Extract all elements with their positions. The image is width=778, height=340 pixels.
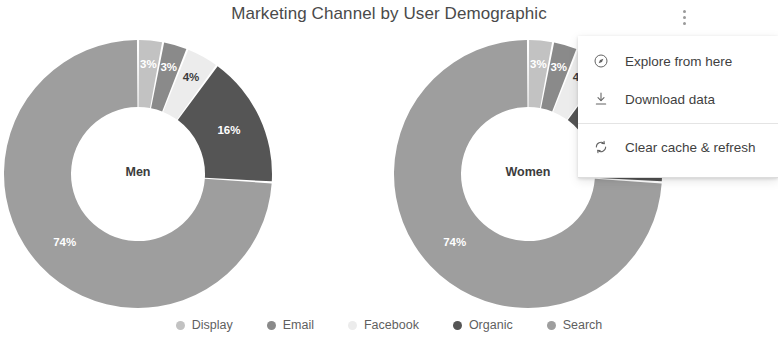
legend-item-search[interactable]: Search <box>547 318 603 332</box>
menu-item-label: Download data <box>625 92 715 107</box>
legend-item-email[interactable]: Email <box>267 318 314 332</box>
menu-bottom-rule <box>578 177 778 178</box>
compass-icon <box>592 52 610 70</box>
legend-label: Organic <box>469 318 513 332</box>
menu-divider <box>578 123 778 124</box>
donut-slice-label-search: 74% <box>53 236 76 248</box>
menu-item-label: Clear cache & refresh <box>625 140 756 155</box>
legend-label: Facebook <box>364 318 419 332</box>
kebab-dot <box>683 22 686 25</box>
legend-item-facebook[interactable]: Facebook <box>348 318 419 332</box>
legend-label: Email <box>283 318 314 332</box>
more-vert-icon[interactable] <box>675 6 693 28</box>
legend-item-display[interactable]: Display <box>176 318 233 332</box>
donut-center-label-men: Men <box>2 165 274 179</box>
menu-item-clear-cache-refresh[interactable]: Clear cache & refresh <box>578 128 778 166</box>
donut-chart-men[interactable]: 3%3%4%16%74% Men <box>2 38 274 310</box>
kebab-dot <box>683 10 686 13</box>
refresh-icon <box>592 138 610 156</box>
menu-item-download-data[interactable]: Download data <box>578 80 778 118</box>
legend-swatch-icon <box>547 321 556 330</box>
page-title: Marketing Channel by User Demographic <box>0 4 778 24</box>
legend-label: Search <box>563 318 603 332</box>
menu-item-label: Explore from here <box>625 54 732 69</box>
chart-card: Marketing Channel by User Demographic 3%… <box>0 0 778 340</box>
overflow-menu[interactable]: Explore from here Download data <box>578 36 778 178</box>
legend-swatch-icon <box>348 321 357 330</box>
legend-swatch-icon <box>267 321 276 330</box>
legend-swatch-icon <box>176 321 185 330</box>
donut-slice-label-facebook: 4% <box>183 71 200 83</box>
menu-item-explore-from-here[interactable]: Explore from here <box>578 42 778 80</box>
legend-item-organic[interactable]: Organic <box>453 318 513 332</box>
chart-legend: Display Email Facebook Organic Search <box>0 318 778 332</box>
legend-label: Display <box>192 318 233 332</box>
donut-slice-label-email: 3% <box>160 61 177 73</box>
download-icon <box>592 90 610 108</box>
donut-slice-label-display: 3% <box>530 58 547 70</box>
donut-slice-label-display: 3% <box>140 58 157 70</box>
kebab-dot <box>683 16 686 19</box>
donut-slice-label-email: 3% <box>550 61 567 73</box>
donut-slice-label-organic: 16% <box>217 124 240 136</box>
legend-swatch-icon <box>453 321 462 330</box>
donut-slice-label-search: 74% <box>443 236 466 248</box>
